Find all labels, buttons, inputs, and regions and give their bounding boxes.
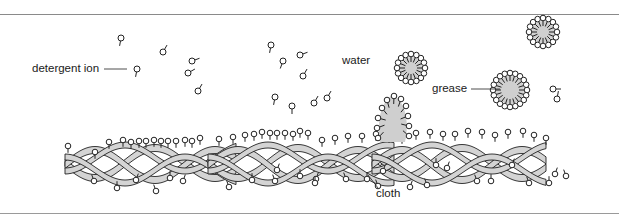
ion-head [289, 103, 295, 109]
water-label: water [342, 55, 370, 67]
ion-head [414, 78, 420, 84]
ion-head [160, 49, 166, 55]
ion-head [91, 178, 97, 184]
ion-head [343, 176, 349, 182]
detergent-ion [290, 131, 296, 141]
grease-label: grease [432, 83, 467, 95]
detergent-ion [554, 91, 560, 102]
ion-head [488, 178, 494, 184]
ion-head [216, 136, 222, 142]
ion-head [282, 130, 288, 136]
detergent-ion [444, 162, 450, 171]
detergent-ion [274, 130, 280, 140]
ion-head [509, 162, 515, 168]
ion-tail [564, 170, 565, 174]
ion-head [300, 73, 306, 79]
detergent-ion [297, 128, 303, 138]
ion-head [405, 113, 411, 119]
ion-head [134, 66, 140, 72]
detergent-ion [520, 128, 526, 138]
detergent-ion [216, 136, 222, 146]
ion-tail [556, 168, 557, 172]
ion-head [526, 29, 532, 35]
ion-tail [274, 100, 275, 105]
detergent-ion [550, 86, 561, 92]
detergent-ion [185, 69, 195, 76]
detergent-ion-label: detergent ion [32, 63, 99, 75]
ion-head [422, 65, 428, 71]
detergent-ion [546, 176, 552, 186]
detergent-ion [492, 132, 498, 142]
detergent-ion [197, 135, 203, 145]
ion-head [444, 165, 450, 171]
ion-tail [165, 45, 168, 49]
detergent-ion [440, 131, 446, 141]
ion-head [379, 105, 385, 111]
detergent-ion [173, 138, 179, 148]
ion-head [189, 58, 195, 64]
ion-head [465, 128, 471, 134]
ion-head [297, 173, 303, 179]
grease-micelles [374, 15, 560, 142]
ion-head [524, 87, 530, 93]
ion-head [267, 130, 273, 136]
ion-head [394, 65, 400, 71]
ion-head [230, 134, 236, 140]
detergent-ion [407, 181, 413, 190]
detergent-ion [134, 66, 140, 77]
detergent-ion [272, 175, 278, 184]
ion-head [136, 138, 142, 144]
ion-head [540, 15, 546, 21]
detergent-ion [552, 168, 558, 177]
ion-tail [270, 48, 271, 53]
ion-head [552, 171, 558, 177]
ion-head [507, 70, 513, 76]
ion-tail [154, 185, 155, 189]
ion-tail [558, 91, 559, 96]
ion-head [259, 129, 265, 135]
detergent-ion [274, 164, 280, 173]
ion-tail [200, 84, 203, 88]
ion-head [491, 92, 497, 98]
detergent-ion [332, 135, 338, 145]
ion-tail [278, 164, 279, 168]
ion-head [118, 35, 124, 41]
ion-head [274, 167, 280, 173]
ion-head [158, 138, 164, 144]
ion-head [173, 138, 179, 144]
ion-head [185, 70, 191, 76]
detergent-ion [160, 45, 167, 55]
ion-head [433, 162, 439, 168]
ion-head [272, 178, 278, 184]
ion-head [165, 138, 171, 144]
ion-head [408, 79, 414, 85]
ion-head [364, 176, 370, 182]
detergent-ion [305, 130, 311, 140]
ion-head [180, 178, 186, 184]
detergent-ion [324, 91, 331, 101]
ion-tail [329, 91, 332, 95]
ion-head [413, 130, 419, 136]
ion-head [274, 130, 280, 136]
detergent-ion [195, 84, 202, 94]
ion-head [332, 135, 338, 141]
ion-head [550, 86, 556, 92]
ion-head [527, 35, 533, 41]
ion-head [143, 138, 149, 144]
detergent-ion [182, 137, 188, 147]
lifting-grease-blob [374, 93, 412, 142]
detergent-ion [165, 138, 171, 148]
detergent-ion [452, 131, 458, 141]
ion-head [65, 143, 71, 149]
detergent-ion [282, 130, 288, 140]
ion-head [427, 129, 433, 135]
detergent-ion [267, 130, 273, 140]
ion-head [92, 149, 98, 155]
detergent-ion [280, 58, 286, 69]
ion-head [424, 182, 430, 188]
detergent-ion [230, 134, 236, 144]
ion-head [345, 133, 351, 139]
detergent-ion [505, 129, 511, 139]
detergent-diagram [0, 0, 619, 219]
ion-head [452, 131, 458, 137]
